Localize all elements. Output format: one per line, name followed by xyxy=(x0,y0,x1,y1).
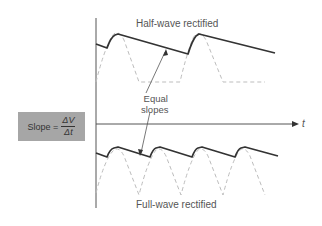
full-wave-input-dashed xyxy=(96,149,265,195)
equal-slopes-label: Equal slopes xyxy=(141,93,168,115)
arrowhead-up-icon xyxy=(163,49,168,56)
slope-numerator: ΔV xyxy=(61,115,75,127)
time-axis-label: t xyxy=(302,118,305,129)
equal-slopes-arrow-up xyxy=(146,52,165,93)
slope-denominator: Δt xyxy=(64,127,73,138)
slope-formula-box: Slope = ΔV Δt xyxy=(18,112,85,141)
half-wave-input-dashed xyxy=(96,33,265,82)
slope-formula-lhs: Slope = xyxy=(28,122,59,132)
half-wave-label: Half-wave rectified xyxy=(136,18,218,29)
equal-slopes-line1: Equal xyxy=(141,93,168,104)
time-axis-arrow-icon xyxy=(292,121,299,127)
equal-slopes-line2: slopes xyxy=(141,104,168,115)
full-wave-label: Full-wave rectified xyxy=(136,199,217,210)
half-wave-output-solid xyxy=(96,34,275,54)
slope-fraction: ΔV Δt xyxy=(61,115,75,138)
equal-slopes-arrow-down xyxy=(141,112,150,153)
